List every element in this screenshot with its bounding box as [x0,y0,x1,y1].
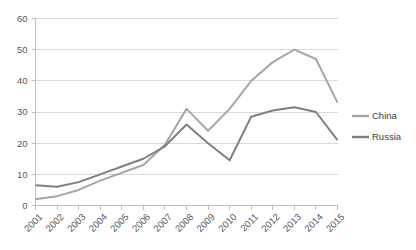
x-tick-label: 2007 [151,211,174,234]
x-tick-label: 2012 [259,211,282,234]
chart-canvas: 0102030405060 20012002200320042005200620… [0,0,416,250]
x-tick-label: 2014 [302,211,325,234]
chart-legend: ChinaRussia [352,110,402,142]
x-tick-label: 2011 [238,211,260,233]
x-tick-label: 2013 [281,211,304,234]
legend-label-china: China [372,110,398,121]
y-tick-label: 0 [22,200,27,211]
y-axis-tick-labels: 0102030405060 [17,13,28,211]
x-tick-label: 2003 [65,211,88,234]
x-tick-label: 2008 [173,211,196,234]
y-tick-label: 20 [17,138,28,149]
x-tick-label: 2010 [216,211,239,234]
y-tick-label: 40 [17,75,28,86]
x-tick-label: 2006 [130,211,153,234]
line-chart: 0102030405060 20012002200320042005200620… [0,0,416,250]
x-axis-tick-labels: 2001200220032004200520062007200820092010… [22,211,347,234]
y-tick-label: 50 [17,44,28,55]
x-tick-label: 2001 [22,211,45,234]
x-tick-label: 2005 [108,211,131,234]
y-tick-label: 10 [17,169,28,180]
x-tick-label: 2004 [86,211,109,234]
x-tick-label: 2009 [194,211,217,234]
series-line-russia [36,107,338,186]
data-series-group [36,50,338,200]
x-tick-label: 2002 [43,211,66,234]
x-tick-label: 2015 [324,211,347,234]
gridlines-group [36,19,338,206]
legend-label-russia: Russia [372,131,402,142]
y-tick-label: 60 [17,13,28,24]
y-tick-label: 30 [17,106,28,117]
